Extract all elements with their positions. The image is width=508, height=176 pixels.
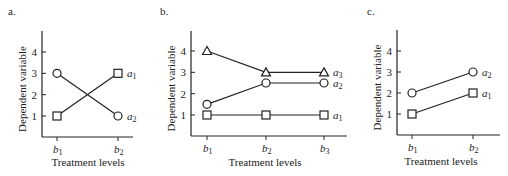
chart-panel-a: a.1234b1b2Treatment levelsDependent vari… bbox=[8, 5, 137, 168]
square-marker bbox=[320, 111, 328, 119]
y-tick-label: 1 bbox=[32, 110, 38, 122]
x-tick-label: b1 bbox=[203, 142, 213, 156]
y-axis-title: Dependent variable bbox=[371, 44, 383, 130]
circle-marker bbox=[203, 100, 211, 108]
square-marker bbox=[469, 89, 477, 97]
circle-marker bbox=[114, 112, 122, 120]
y-tick-label: 2 bbox=[387, 87, 393, 99]
x-axis-title: Treatment levels bbox=[404, 155, 477, 167]
y-tick-label: 3 bbox=[181, 66, 187, 78]
x-tick-label: b3 bbox=[320, 142, 330, 156]
series-label-a1: a1 bbox=[127, 67, 137, 81]
y-tick-label: 2 bbox=[181, 88, 187, 100]
x-tick-label: b2 bbox=[114, 143, 124, 157]
series-label-a1: a1 bbox=[482, 87, 492, 101]
series-line-a2 bbox=[412, 72, 473, 93]
circle-marker bbox=[53, 69, 61, 77]
series-label-a3: a3 bbox=[333, 66, 343, 80]
panel-label: c. bbox=[367, 5, 375, 17]
series-label-a2: a2 bbox=[127, 110, 137, 124]
x-axis-title: Treatment levels bbox=[51, 156, 124, 168]
circle-marker bbox=[408, 89, 416, 97]
x-tick-label: b2 bbox=[262, 142, 272, 156]
circle-marker bbox=[469, 68, 477, 76]
x-tick-label: b2 bbox=[469, 141, 479, 155]
chart-panel-c: c.1234b1b2Treatment levelsDependent vari… bbox=[367, 5, 500, 167]
square-marker bbox=[408, 110, 416, 118]
panel-label: a. bbox=[8, 5, 16, 17]
square-marker bbox=[262, 111, 270, 119]
y-tick-label: 4 bbox=[32, 46, 38, 58]
y-tick-label: 4 bbox=[181, 45, 187, 57]
panel-label: b. bbox=[160, 5, 169, 17]
circle-marker bbox=[262, 79, 270, 87]
y-tick-label: 2 bbox=[32, 89, 38, 101]
y-tick-label: 1 bbox=[181, 109, 187, 121]
chart-panel-b: b.1234b1b2b3Treatment levelsDependent va… bbox=[160, 5, 347, 168]
square-marker bbox=[203, 111, 211, 119]
y-axis-title: Dependent variable bbox=[16, 46, 28, 132]
series-line-a1 bbox=[412, 93, 473, 114]
circle-marker bbox=[320, 79, 328, 87]
series-label-a1: a1 bbox=[333, 109, 343, 123]
x-tick-label: b1 bbox=[408, 141, 418, 155]
y-tick-label: 1 bbox=[387, 108, 393, 120]
square-marker bbox=[53, 112, 61, 120]
y-axis-title: Dependent variable bbox=[165, 45, 177, 131]
y-tick-label: 3 bbox=[387, 66, 393, 78]
y-tick-label: 4 bbox=[387, 45, 393, 57]
square-marker bbox=[114, 69, 122, 77]
triangle-marker bbox=[203, 47, 212, 55]
series-label-a2: a2 bbox=[482, 66, 492, 80]
x-tick-label: b1 bbox=[53, 143, 63, 157]
x-axis-title: Treatment levels bbox=[228, 156, 301, 168]
interaction-plots-figure: a.1234b1b2Treatment levelsDependent vari… bbox=[0, 0, 508, 176]
y-tick-label: 3 bbox=[32, 67, 38, 79]
